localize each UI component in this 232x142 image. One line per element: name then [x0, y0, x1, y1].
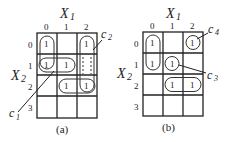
c3-sub: 3 [213, 74, 218, 83]
caption-b: (b) [162, 121, 175, 134]
cell-a-r0c2: 1 [84, 39, 89, 49]
caption-a: (a) [56, 123, 69, 136]
col-label-0-b: 0 [150, 21, 155, 31]
col-label-1: 1 [64, 22, 69, 32]
x2-label-sub-b: 2 [127, 71, 132, 82]
cell-a-r2c2: 1 [84, 81, 89, 91]
c3-label: c [207, 68, 213, 82]
row-label-1: 1 [28, 61, 33, 71]
karnaugh-maps-figure: X 1 0 1 2 0 1 2 3 X 2 [0, 0, 232, 142]
col-label-0: 0 [44, 22, 49, 32]
x1-label-main-b: X [165, 6, 175, 21]
ones-b: 1 1 1 1 1 1 [150, 38, 195, 90]
c2-label: c [101, 27, 107, 41]
col-label-1-b: 1 [170, 21, 175, 31]
row-label-3-b: 3 [134, 102, 139, 112]
row-label-0: 0 [28, 40, 33, 50]
ones-a: 1 1 1 1 1 1 [44, 39, 89, 91]
cell-b-r1c0: 1 [150, 59, 155, 69]
row-label-3: 3 [28, 103, 33, 113]
c2-sub: 2 [108, 33, 112, 42]
x1-label-sub-b: 1 [176, 11, 181, 22]
c1-sub: 1 [16, 113, 20, 122]
row-label-1-b: 1 [134, 60, 139, 70]
c1-label: c [9, 106, 15, 120]
row-label-2-b: 2 [134, 81, 139, 91]
panel-b: X 1 0 1 2 0 1 2 3 X 2 1 1 1 1 1 [116, 6, 219, 134]
cell-b-r2c2: 1 [190, 80, 195, 90]
cell-b-r0c2: 1 [190, 38, 195, 48]
col-label-2-b: 2 [190, 21, 195, 31]
c4-label: c [208, 22, 214, 36]
x1-label-sub: 1 [70, 11, 75, 22]
row-label-2: 2 [28, 82, 33, 92]
x2-label-sub: 2 [21, 73, 26, 84]
cell-b-r2c1: 1 [170, 80, 175, 90]
col-label-2: 2 [84, 22, 89, 32]
c4-sub: 4 [215, 28, 219, 37]
cell-a-r2c1: 1 [64, 81, 69, 91]
cell-b-r0c0: 1 [150, 38, 155, 48]
panel-a: X 1 0 1 2 0 1 2 3 X 2 [9, 6, 112, 136]
cell-b-r1c1: 1 [170, 59, 175, 69]
x2-label-main-b: X [116, 66, 126, 81]
row-label-0-b: 0 [134, 39, 139, 49]
x2-label-main: X [10, 68, 20, 83]
cell-a-r1c1: 1 [64, 60, 69, 70]
cell-a-r0c0: 1 [44, 39, 49, 49]
x1-label-main: X [59, 6, 69, 21]
cell-a-r1c0: 1 [44, 60, 49, 70]
